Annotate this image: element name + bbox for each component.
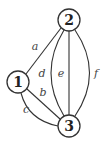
edge-f (75, 30, 90, 116)
node-1-label: 1 (13, 74, 23, 90)
graph-diagram: a b c d e f 1 2 3 (0, 0, 105, 147)
edge-label-f: f (93, 67, 100, 80)
node-2-label: 2 (64, 12, 74, 28)
edge-label-c: c (23, 103, 29, 116)
edge-label-b: b (39, 86, 46, 99)
edge-label-a: a (32, 40, 39, 53)
node-3: 3 (58, 115, 80, 137)
node-1: 1 (7, 71, 29, 93)
node-3-label: 3 (64, 118, 74, 134)
edge-label-e: e (58, 67, 65, 80)
node-2: 2 (58, 9, 80, 31)
edge-label-d: d (38, 67, 45, 80)
